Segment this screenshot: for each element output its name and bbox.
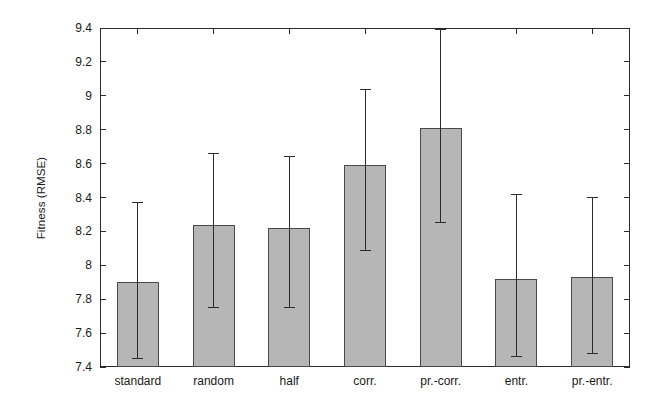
error-bar-line bbox=[137, 203, 138, 359]
y-axis-tick bbox=[100, 163, 106, 164]
y-axis-tick-label: 8 bbox=[32, 259, 92, 271]
y-axis-tick-label: 7.6 bbox=[32, 327, 92, 339]
figure-canvas: Fitness (RMSE) 9.49.298.88.68.48.287.87.… bbox=[0, 0, 669, 410]
y-axis-tick-label: 7.4 bbox=[32, 361, 92, 373]
error-bar-cap-upper bbox=[284, 156, 295, 157]
error-bar-cap-lower bbox=[511, 356, 522, 357]
error-bar-cap-lower bbox=[132, 358, 143, 359]
error-bar-line bbox=[516, 194, 517, 357]
y-axis-tick-label: 8.6 bbox=[32, 158, 92, 170]
y-axis-tick bbox=[624, 299, 630, 300]
y-axis-tick bbox=[624, 333, 630, 334]
x-axis-tick bbox=[365, 28, 366, 34]
error-bar-cap-lower bbox=[360, 250, 371, 251]
error-bar-cap-lower bbox=[435, 222, 446, 223]
y-axis-tick bbox=[624, 367, 630, 368]
error-bar-line bbox=[365, 89, 366, 250]
error-bar-cap-lower bbox=[208, 307, 219, 308]
x-axis-tick bbox=[516, 28, 517, 34]
x-axis-tick-label: pr.-entr. bbox=[532, 374, 652, 388]
y-axis-tick bbox=[100, 333, 106, 334]
error-bar-line bbox=[592, 198, 593, 354]
error-bar-line bbox=[213, 153, 214, 307]
y-axis-tick-label: 9.4 bbox=[32, 22, 92, 34]
y-axis-tick bbox=[100, 28, 106, 29]
error-bar-cap-upper bbox=[360, 89, 371, 90]
y-axis-tick bbox=[100, 231, 106, 232]
y-axis-tick bbox=[100, 197, 106, 198]
y-axis-tick bbox=[100, 61, 106, 62]
x-axis-tick bbox=[213, 28, 214, 34]
y-axis-tick-label: 8.8 bbox=[32, 124, 92, 136]
y-axis-tick-label: 7.8 bbox=[32, 293, 92, 305]
y-axis-tick-label: 8.4 bbox=[32, 192, 92, 204]
y-axis-tick bbox=[100, 265, 106, 266]
error-bar-cap-lower bbox=[587, 353, 598, 354]
error-bar-cap-upper bbox=[587, 197, 598, 198]
y-axis-tick bbox=[624, 231, 630, 232]
y-axis-tick bbox=[100, 129, 106, 130]
y-axis-tick bbox=[100, 299, 106, 300]
x-axis-tick bbox=[592, 28, 593, 34]
error-bar-cap-lower bbox=[284, 307, 295, 308]
y-axis-tick-label: 9 bbox=[32, 90, 92, 102]
y-axis-tick bbox=[624, 95, 630, 96]
y-axis-tick bbox=[624, 265, 630, 266]
error-bar-cap-upper bbox=[511, 194, 522, 195]
y-axis-tick-label: 8.2 bbox=[32, 225, 92, 237]
y-axis-tick bbox=[624, 129, 630, 130]
error-bar-line bbox=[440, 30, 441, 223]
y-axis-tick bbox=[100, 95, 106, 96]
y-axis-tick bbox=[624, 197, 630, 198]
error-bar-cap-upper bbox=[208, 153, 219, 154]
y-axis-tick bbox=[624, 163, 630, 164]
y-axis-tick bbox=[624, 61, 630, 62]
error-bar-cap-upper bbox=[132, 202, 143, 203]
x-axis-tick bbox=[289, 28, 290, 34]
error-bar-line bbox=[289, 157, 290, 308]
x-axis-tick bbox=[137, 28, 138, 34]
y-axis-tick bbox=[100, 367, 106, 368]
error-bar-cap-upper bbox=[435, 29, 446, 30]
y-axis-tick-label: 9.2 bbox=[32, 56, 92, 68]
y-axis-tick bbox=[624, 28, 630, 29]
